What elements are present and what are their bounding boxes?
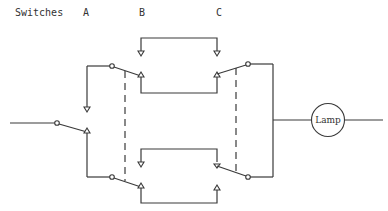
switch-c-upper-pivot [246,62,251,67]
circuit-wiring: Lamp [0,0,388,211]
lamp: Lamp [312,104,345,137]
upper-branch [87,38,273,93]
circuit-diagram: Switches A B C [0,0,388,211]
switch-b-lower-pivot [110,175,115,180]
switch-a [55,66,90,177]
lower-branch [87,149,273,203]
switch-b-upper-contact-upper [138,51,144,56]
switch-b-upper-pivot [110,64,115,69]
switch-b-upper-contact-lower [138,72,144,77]
switch-c-lower-pivot [246,175,251,180]
output-bus [273,64,312,177]
switch-b-lower-contact-upper [138,162,144,167]
switch-c-upper-contact-upper [214,51,220,56]
switch-a-pivot [55,121,60,126]
switch-b-lower-contact-lower [138,183,144,188]
lamp-label: Lamp [315,115,341,125]
switch-a-contact-lower [84,128,90,133]
switch-c-lower-contact-lower [214,185,220,190]
switch-a-contact-upper [84,107,90,112]
